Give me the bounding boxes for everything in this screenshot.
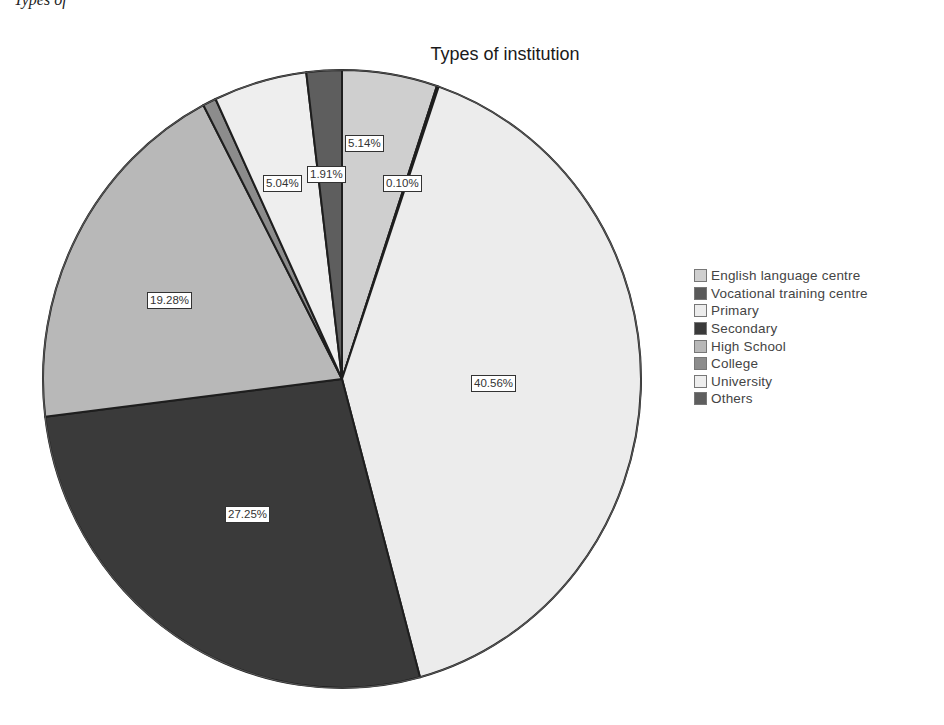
slice-percent-label: 0.10% <box>383 175 422 192</box>
legend-swatch-icon <box>694 357 707 370</box>
legend-swatch-icon <box>694 392 707 405</box>
slice-percent-label: 5.04% <box>263 175 302 192</box>
legend-swatch-icon <box>694 287 707 300</box>
legend-label: Others <box>711 391 753 406</box>
legend-label: Vocational training centre <box>711 286 868 301</box>
legend-label: Primary <box>711 303 759 318</box>
legend-swatch-icon <box>694 375 707 388</box>
legend-item: University <box>694 373 868 391</box>
slice-percent-label: 19.28% <box>147 292 192 309</box>
legend-item: High School <box>694 337 868 355</box>
slice-percent-label: 5.14% <box>345 135 384 152</box>
slice-percent-label: 27.25% <box>225 506 270 523</box>
legend-label: University <box>711 374 772 389</box>
legend: English language centreVocational traini… <box>694 267 868 408</box>
legend-item: Primary <box>694 302 868 320</box>
legend-label: College <box>711 356 758 371</box>
legend-item: Secondary <box>694 320 868 338</box>
slice-percent-label: 40.56% <box>471 375 516 392</box>
legend-swatch-icon <box>694 340 707 353</box>
legend-item: English language centre <box>694 267 868 285</box>
legend-label: English language centre <box>711 268 860 283</box>
legend-swatch-icon <box>694 322 707 335</box>
slice-percent-label: 1.91% <box>307 166 346 183</box>
legend-item: Vocational training centre <box>694 285 868 303</box>
legend-item: College <box>694 355 868 373</box>
legend-label: Secondary <box>711 321 777 336</box>
legend-swatch-icon <box>694 269 707 282</box>
legend-item: Others <box>694 390 868 408</box>
legend-label: High School <box>711 339 786 354</box>
legend-swatch-icon <box>694 304 707 317</box>
